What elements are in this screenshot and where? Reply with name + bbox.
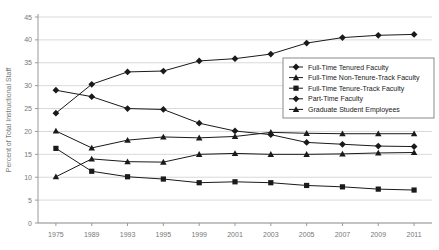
- x-tick-label: 1975: [48, 231, 64, 238]
- data-point: [88, 93, 95, 100]
- y-tick-label: 0: [28, 220, 32, 227]
- chart-container: 051015202530354045 197519891993199519992…: [0, 0, 439, 250]
- chart-legend: Full-Time Tenured FacultyFull-Time Non-T…: [283, 58, 434, 118]
- x-tick-label: 1989: [84, 231, 100, 238]
- line-chart: 051015202530354045 197519891993199519992…: [0, 0, 439, 250]
- data-point: [303, 139, 310, 146]
- y-axis-title: Percent of Total Instructional Staff: [5, 68, 12, 172]
- data-point: [197, 180, 202, 185]
- x-axis-tick-labels: 1975198919931995199920012003200520072009…: [48, 231, 422, 238]
- y-tick-label: 10: [24, 174, 32, 181]
- y-tick-label: 20: [24, 128, 32, 135]
- x-tick-label: 1993: [120, 231, 136, 238]
- legend-marker-icon: [293, 86, 298, 91]
- axes: [35, 14, 432, 226]
- data-point: [53, 87, 60, 94]
- data-point: [161, 176, 166, 181]
- data-point: [53, 174, 60, 180]
- data-point: [232, 179, 237, 184]
- y-tick-label: 25: [24, 105, 32, 112]
- x-tick-label: 2001: [227, 231, 243, 238]
- data-point: [304, 183, 309, 188]
- y-tick-label: 15: [24, 151, 32, 158]
- y-tick-label: 35: [24, 59, 32, 66]
- data-point: [232, 55, 239, 62]
- x-tick-label: 2007: [335, 231, 351, 238]
- x-tick-label: 1999: [191, 231, 207, 238]
- legend-label: Graduate Student Employees: [308, 106, 400, 114]
- data-point: [411, 31, 418, 38]
- x-tick-label: 2009: [370, 231, 386, 238]
- data-point: [303, 40, 310, 47]
- y-tick-label: 40: [24, 36, 32, 43]
- data-point: [375, 32, 382, 39]
- data-point: [196, 120, 203, 127]
- gridlines: [38, 17, 432, 223]
- data-point: [339, 141, 346, 148]
- y-axis-title-text: Percent of Total Instructional Staff: [5, 68, 12, 172]
- data-point: [268, 180, 273, 185]
- data-point: [53, 128, 60, 134]
- legend-item-2[interactable]: Full-Time Non-Tenure-Track Faculty: [289, 74, 420, 82]
- legend-label: Full-Time Tenure-Track Faculty: [308, 85, 405, 93]
- data-point: [160, 106, 167, 113]
- data-point: [375, 143, 382, 150]
- x-tick-label: 2005: [299, 231, 315, 238]
- legend-label: Part-Time Faculty: [308, 95, 363, 103]
- data-point: [376, 187, 381, 192]
- series-line: [56, 153, 414, 177]
- data-point: [124, 105, 131, 112]
- series-2: [53, 149, 418, 179]
- data-point: [411, 187, 416, 192]
- data-point: [196, 58, 203, 65]
- y-axis-tick-labels: 051015202530354045: [24, 14, 32, 227]
- x-tick-label: 1995: [156, 231, 172, 238]
- data-point: [160, 68, 167, 75]
- data-point: [411, 143, 418, 150]
- y-tick-label: 5: [28, 197, 32, 204]
- x-tick-label: 2011: [407, 231, 422, 238]
- x-tick-label: 2003: [263, 231, 279, 238]
- data-point: [124, 69, 131, 76]
- data-point: [267, 51, 274, 58]
- legend-label: Full-Time Tenured Faculty: [308, 64, 389, 72]
- data-point: [53, 146, 58, 151]
- y-tick-label: 30: [24, 82, 32, 89]
- y-tick-label: 45: [24, 14, 32, 21]
- data-point: [125, 174, 130, 179]
- data-point: [340, 184, 345, 189]
- data-point: [89, 169, 94, 174]
- legend-label: Full-Time Non-Tenure-Track Faculty: [308, 74, 420, 82]
